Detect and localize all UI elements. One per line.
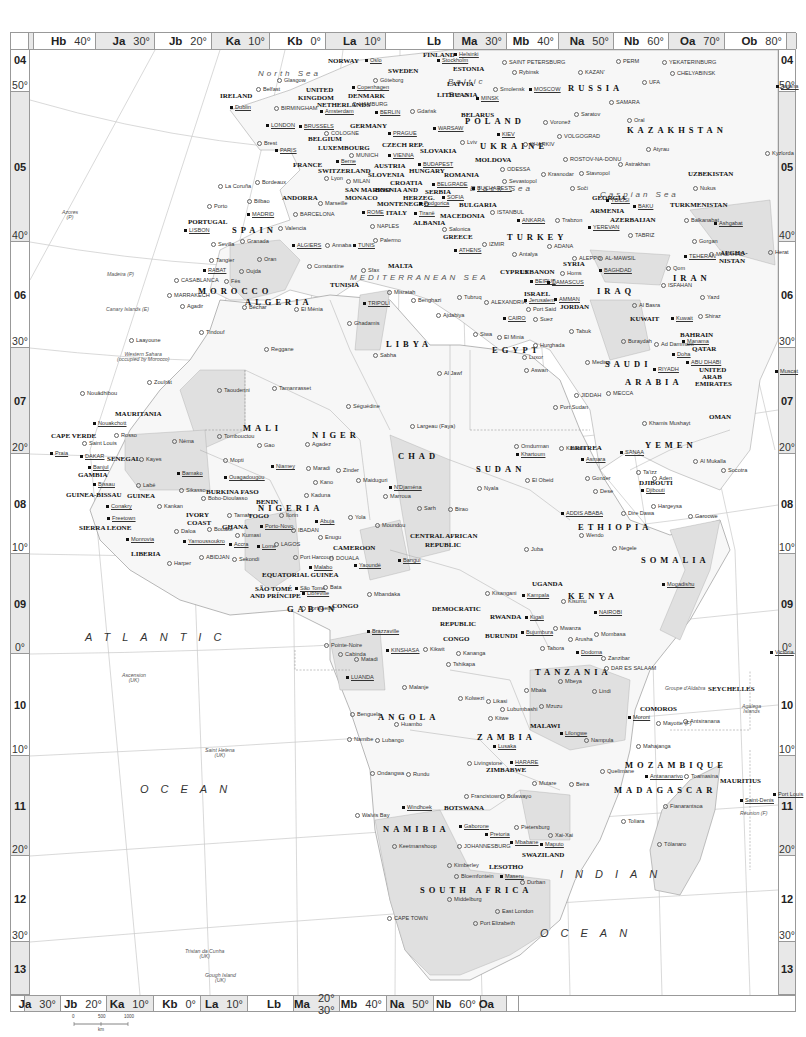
- capital-label[interactable]: KIEV: [495, 132, 515, 138]
- city-label[interactable]: El Obeid: [523, 478, 553, 484]
- country-label[interactable]: GUINEA: [127, 493, 155, 500]
- city-label[interactable]: Namibe: [345, 737, 373, 743]
- country-label[interactable]: NORWAY: [328, 58, 359, 65]
- country-label[interactable]: IRELAND: [220, 93, 252, 100]
- city-label[interactable]: Zanzibar: [599, 656, 630, 662]
- city-label[interactable]: Pietersburg: [512, 825, 550, 831]
- capital-label[interactable]: Moroni: [626, 715, 650, 721]
- city-label[interactable]: Ilorin: [277, 513, 298, 519]
- capital-label[interactable]: ALGIERS: [290, 243, 321, 249]
- city-label[interactable]: Taoudenni: [215, 388, 250, 394]
- city-label[interactable]: Fès: [222, 279, 240, 285]
- country-label[interactable]: SOMALIA: [641, 556, 710, 565]
- city-label[interactable]: Siwa: [471, 332, 492, 338]
- city-label[interactable]: Middelburg: [445, 897, 482, 903]
- city-label[interactable]: TABRIZ: [626, 233, 654, 239]
- city-label[interactable]: Al Basra: [630, 303, 660, 309]
- capital-label[interactable]: Kuwait: [669, 316, 693, 322]
- city-label[interactable]: Rundu: [404, 772, 429, 778]
- city-label[interactable]: Saratov: [572, 112, 600, 118]
- city-label[interactable]: ALEXANDRIA: [482, 300, 526, 306]
- capital-label[interactable]: MADRID: [245, 212, 274, 218]
- country-label[interactable]: ESTONIA: [453, 66, 484, 73]
- capital-label[interactable]: Saint-Denis: [738, 798, 774, 804]
- country-label[interactable]: MADAGASCAR: [614, 786, 716, 795]
- city-label[interactable]: Mbeya: [556, 679, 582, 685]
- city-label[interactable]: Yola: [346, 515, 366, 521]
- capital-label[interactable]: Dublin: [228, 105, 251, 111]
- city-label[interactable]: Kimberley: [445, 863, 479, 869]
- city-label[interactable]: Bilbao: [245, 199, 270, 205]
- city-label[interactable]: Keetmanshoop: [390, 844, 437, 850]
- capital-label[interactable]: Bamako: [175, 471, 203, 477]
- territory-label[interactable]: Western Sahara(occupied by Morocco): [117, 352, 169, 362]
- city-label[interactable]: Ad Dammam: [652, 342, 694, 348]
- city-label[interactable]: Kayes: [137, 457, 162, 463]
- country-label[interactable]: UZBEKISTAN: [688, 171, 733, 178]
- city-label[interactable]: Sikasso: [177, 488, 206, 494]
- city-label[interactable]: Glasgow: [275, 78, 306, 84]
- country-label[interactable]: DENMARK: [348, 93, 385, 100]
- capital-label[interactable]: Yamoussoukro: [181, 539, 225, 545]
- city-label[interactable]: Kitwe: [486, 716, 509, 722]
- city-label[interactable]: Kisumu: [559, 599, 587, 605]
- city-label[interactable]: Voronež: [541, 120, 571, 126]
- city-label[interactable]: Laayoune: [127, 338, 161, 344]
- city-label[interactable]: Port Elizabeth: [471, 921, 515, 927]
- capital-label[interactable]: Brazzaville: [365, 629, 399, 635]
- capital-label[interactable]: MOSCOW: [527, 87, 560, 93]
- city-label[interactable]: Stavropol: [577, 171, 610, 177]
- capital-label[interactable]: Kampala: [520, 593, 549, 599]
- territory-label[interactable]: Ascension(UK): [122, 673, 146, 683]
- city-label[interactable]: Sevastopol: [500, 179, 537, 185]
- city-label[interactable]: Ghadamis: [345, 321, 380, 327]
- city-label[interactable]: Salonica: [440, 227, 470, 233]
- capital-label[interactable]: NAIROBI: [592, 610, 622, 616]
- country-label[interactable]: MOLDOVA: [475, 157, 511, 164]
- country-label[interactable]: LATVIA: [447, 81, 474, 88]
- country-label[interactable]: GUINEA-BISSAU: [66, 492, 122, 499]
- capital-label[interactable]: MINSK: [474, 96, 499, 102]
- country-label[interactable]: SLOVENIA: [368, 172, 405, 179]
- country-label[interactable]: OMAN: [709, 414, 731, 421]
- capital-label[interactable]: Gaborone: [457, 824, 489, 830]
- city-label[interactable]: Port Said: [524, 307, 556, 313]
- city-label[interactable]: NAPLES: [368, 224, 399, 230]
- city-label[interactable]: Tôlanaro: [655, 842, 686, 848]
- city-label[interactable]: Maradi: [304, 466, 330, 472]
- city-label[interactable]: Livingstone: [465, 761, 502, 767]
- city-label[interactable]: Gdańsk: [408, 109, 436, 115]
- city-label[interactable]: Labé: [134, 483, 155, 489]
- country-label[interactable]: EQUATORIAL GUINEA: [262, 572, 339, 579]
- city-label[interactable]: Kyzlorda: [763, 151, 794, 157]
- country-label[interactable]: COMOROS: [640, 706, 677, 713]
- country-label[interactable]: ROMANIA: [444, 172, 479, 179]
- city-label[interactable]: DOUALA: [327, 556, 359, 562]
- city-label[interactable]: Kananga: [454, 651, 485, 657]
- city-label[interactable]: MILAN: [344, 179, 370, 185]
- city-label[interactable]: ROSTOV-NA-DONU: [561, 157, 621, 163]
- capital-label[interactable]: Malabo: [307, 565, 332, 571]
- capital-label[interactable]: ANKARA: [515, 218, 545, 224]
- capital-label[interactable]: Asmara: [579, 457, 605, 463]
- territory-label[interactable]: Azores(P): [62, 210, 78, 220]
- city-label[interactable]: MUNICH: [347, 153, 378, 159]
- country-label[interactable]: NIGER: [312, 431, 360, 440]
- ocean-label[interactable]: ATLANTIC: [85, 632, 233, 643]
- country-label[interactable]: BENIN: [256, 499, 278, 506]
- sea-label[interactable]: MEDITERRANEAN SEA: [350, 274, 489, 282]
- territory-label[interactable]: AgalegaIslands: [742, 704, 761, 714]
- capital-label[interactable]: BAGHDAD: [597, 268, 632, 274]
- capital-label[interactable]: Abuja: [313, 519, 334, 525]
- city-label[interactable]: Tubruq: [455, 295, 482, 301]
- country-label[interactable]: MACEDONIA: [440, 213, 485, 220]
- capital-label[interactable]: Muscat: [773, 369, 798, 375]
- country-label[interactable]: LITHUANIA: [437, 92, 477, 99]
- capital-label[interactable]: Copenhagen: [350, 85, 389, 91]
- capital-label[interactable]: BAKU: [631, 204, 653, 210]
- city-label[interactable]: Soči: [568, 186, 588, 192]
- capital-label[interactable]: TUNIS: [351, 243, 375, 249]
- country-label[interactable]: SYRIA: [563, 261, 585, 268]
- city-label[interactable]: UFA: [640, 80, 660, 86]
- city-label[interactable]: Sarh: [415, 506, 436, 512]
